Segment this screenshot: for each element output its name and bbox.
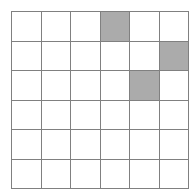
grid-cell-empty xyxy=(12,159,42,189)
grid-cell-empty xyxy=(71,12,101,42)
grid-cell-empty xyxy=(100,159,130,189)
grid-row xyxy=(12,159,189,189)
grid-cell-empty xyxy=(12,100,42,130)
grid-table xyxy=(11,11,189,189)
grid-cell-empty xyxy=(100,41,130,71)
grid-cell-shaded xyxy=(130,71,160,101)
grid-cell-empty xyxy=(41,71,71,101)
grid-cell-empty xyxy=(130,41,160,71)
grid-cell-empty xyxy=(130,130,160,160)
grid-cell-empty xyxy=(159,130,189,160)
grid-cell-empty xyxy=(71,100,101,130)
grid-row xyxy=(12,41,189,71)
grid-cell-empty xyxy=(41,159,71,189)
grid-cell-empty xyxy=(159,71,189,101)
grid-row xyxy=(12,130,189,160)
grid-cell-shaded xyxy=(100,12,130,42)
grid-cell-empty xyxy=(41,130,71,160)
grid-cell-empty xyxy=(71,130,101,160)
grid-cell-empty xyxy=(12,41,42,71)
grid-cell-empty xyxy=(130,159,160,189)
grid-cell-empty xyxy=(159,12,189,42)
grid-cell-empty xyxy=(159,159,189,189)
grid-cell-empty xyxy=(100,71,130,101)
grid-cell-empty xyxy=(130,100,160,130)
grid-cell-empty xyxy=(100,100,130,130)
grid-cell-empty xyxy=(71,41,101,71)
grid-body xyxy=(12,12,189,189)
grid-cell-empty xyxy=(12,71,42,101)
grid-cell-empty xyxy=(41,41,71,71)
grid-cell-empty xyxy=(130,12,160,42)
grid-row xyxy=(12,12,189,42)
grid-row xyxy=(12,71,189,101)
grid-cell-empty xyxy=(71,71,101,101)
grid-cell-empty xyxy=(12,130,42,160)
grid-cell-empty xyxy=(41,100,71,130)
grid-row xyxy=(12,100,189,130)
grid-cell-empty xyxy=(100,130,130,160)
grid-cell-empty xyxy=(71,159,101,189)
grid-cell-empty xyxy=(12,12,42,42)
grid-figure xyxy=(11,11,182,182)
grid-cell-shaded xyxy=(159,41,189,71)
grid-cell-empty xyxy=(41,12,71,42)
grid-cell-empty xyxy=(159,100,189,130)
